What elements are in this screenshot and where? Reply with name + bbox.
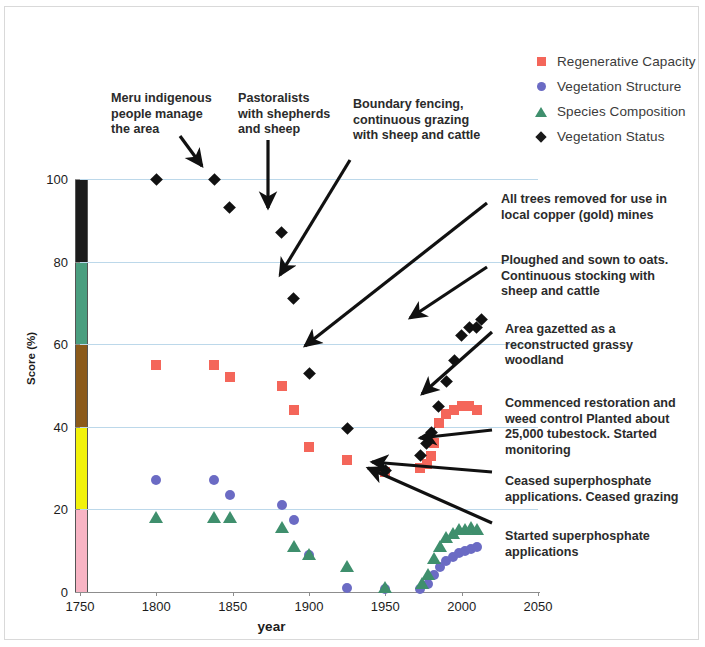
annotation-line: Area gazetted as a [505,322,675,338]
gridline [80,427,538,428]
data-point [151,475,161,485]
data-point [207,511,221,523]
chart-frame: Regenerative Capacity Vegetation Structu… [4,6,699,640]
legend-label: Species Composition [557,104,686,119]
data-point [427,552,441,564]
legend-label: Regenerative Capacity [557,54,696,69]
y-axis-tick [75,179,80,180]
annotation-line: with shepherds [238,107,346,123]
x-axis-tick-label: 2050 [524,599,553,614]
data-point [151,360,161,370]
triangle-marker-icon [532,107,550,117]
data-point [289,515,299,525]
gridline [80,344,538,345]
x-axis-tick-label: 1950 [371,599,400,614]
data-point [340,560,354,572]
annotation-meru-indigenous: Meru indigenous people manage the area [111,91,231,138]
y-axis-tick-label: 20 [54,502,68,517]
annotation-line: Commenced restoration and [505,396,705,412]
x-axis-tick [233,592,234,596]
annotation-line: with sheep and cattle [353,128,493,144]
x-axis-tick-label: 1850 [218,599,247,614]
data-point [342,583,352,593]
data-point [209,360,219,370]
x-axis-tick-label: 1800 [142,599,171,614]
annotation-line: 25,000 tubestock. Started [505,427,705,443]
legend-item-species-composition: Species Composition [532,99,705,124]
y-axis-tick-label: 60 [54,337,68,352]
annotation-line: Continuous stocking with [501,269,696,285]
annotation-line: people manage [111,107,231,123]
chart-legend: Regenerative Capacity Vegetation Structu… [532,49,705,149]
data-point [470,523,484,535]
annotation-trees-removed: All trees removed for use in local coppe… [501,192,701,223]
data-point [472,542,482,552]
square-marker-icon [532,57,550,66]
annotation-line: woodland [505,353,675,369]
y-axis-tick-label: 80 [54,254,68,269]
data-point [302,548,316,560]
annotation-area-gazetted: Area gazetted as a reconstructed grassy … [505,322,675,369]
y-axis-title: Score (%) [25,332,37,385]
data-point [223,511,237,523]
circle-marker-icon [532,82,550,91]
data-point [150,173,163,186]
data-point [287,540,301,552]
data-point [287,292,300,305]
annotation-line: monitoring [505,443,705,459]
x-axis-tick-label: 1900 [295,599,324,614]
data-point [209,475,219,485]
annotation-line: applications [505,545,705,561]
data-point [223,202,236,215]
x-axis-tick-label: 1750 [66,599,95,614]
x-axis-tick [538,592,539,596]
annotation-line: Ploughed and sown to oats. [501,253,696,269]
data-point [440,375,453,388]
annotation-line: Pastoralists [238,91,346,107]
annotation-line: and sheep [238,122,346,138]
data-point [225,372,235,382]
y-axis-tick [75,262,80,263]
data-point [341,422,354,435]
data-point [277,500,287,510]
data-point [149,511,163,523]
annotation-line: applications. Ceased grazing [505,490,705,506]
x-axis-tick [309,592,310,596]
annotation-commenced-restoration: Commenced restoration and weed control P… [505,396,705,458]
annotation-line: continuous grazing [353,113,493,129]
plot-area: 0204060801001750180018501900195020002050 [80,179,538,592]
data-point [289,405,299,415]
annotation-line: Ceased superphosphate [505,474,705,490]
data-point [378,581,392,593]
gridline [80,262,538,263]
annotation-line: All trees removed for use in [501,192,701,208]
annotation-line: Meru indigenous [111,91,231,107]
data-point [342,455,352,465]
x-axis-tick-label: 2000 [447,599,476,614]
annotation-line: the area [111,122,231,138]
y-axis-tick [75,509,80,510]
y-axis-tick [75,427,80,428]
data-point [426,451,436,461]
data-point [275,521,289,533]
annotation-ceased-superphosphate: Ceased superphosphate applications. Ceas… [505,474,705,505]
y-axis-tick-label: 40 [54,419,68,434]
x-axis-tick [80,592,81,596]
annotation-started-superphosphate: Started superphosphate applications [505,529,705,560]
x-axis-tick [462,592,463,596]
legend-item-vegetation-status: Vegetation Status [532,124,705,149]
data-point [472,405,482,415]
diamond-marker-icon [532,133,550,141]
annotation-line: sheep and cattle [501,284,696,300]
x-axis-title: year [5,619,538,634]
annotation-line: reconstructed grassy [505,338,675,354]
annotation-line: Boundary fencing, [353,97,493,113]
annotation-line: weed control Planted about [505,412,705,428]
annotation-boundary-fencing: Boundary fencing, continuous grazing wit… [353,97,493,144]
gridline [80,179,538,180]
data-point [303,367,316,380]
legend-label: Vegetation Status [557,129,665,144]
annotation-line: local copper (gold) mines [501,208,701,224]
y-axis-tick [75,344,80,345]
legend-item-vegetation-structure: Vegetation Structure [532,74,705,99]
